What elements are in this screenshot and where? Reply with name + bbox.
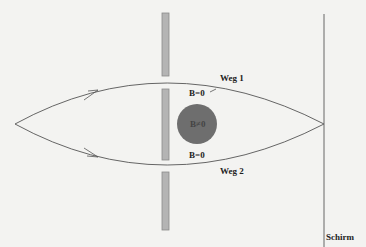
screen-label: Schirm xyxy=(326,233,354,242)
double-slit-barrier xyxy=(162,13,169,230)
path-1-curve xyxy=(15,83,324,124)
diagram-canvas xyxy=(0,0,366,247)
barrier-segment-top xyxy=(162,13,169,76)
barrier-segment-middle xyxy=(162,89,169,160)
field-label-center: B≠0 xyxy=(190,120,205,129)
path-2-curve xyxy=(15,124,324,165)
barrier-segment-bottom xyxy=(162,172,169,230)
arrow-icon-path-2 xyxy=(84,148,98,157)
field-label-top: B=0 xyxy=(189,89,205,98)
path-2-label: Weg 2 xyxy=(220,167,244,176)
arrow-icon-path-1-right xyxy=(210,89,216,92)
path-1-label: Weg 1 xyxy=(220,74,244,83)
arrow-icon-path-1 xyxy=(84,90,98,100)
field-label-bottom: B=0 xyxy=(189,151,205,160)
